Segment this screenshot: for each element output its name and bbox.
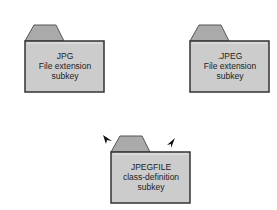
- folder-jpg: JPG File extension subkey: [24, 24, 106, 94]
- folder-kind: subkey: [189, 71, 271, 81]
- arrowhead-right-icon: [165, 137, 177, 149]
- folder-type: File extension: [24, 61, 106, 71]
- diagram-canvas: JPG File extension subkey .JPEG File ext…: [0, 0, 277, 210]
- folder-title: JPEGFILE: [110, 162, 192, 172]
- arrowhead-left-icon: [102, 134, 114, 146]
- folder-label: JPEGFILE class-definition subkey: [110, 162, 192, 192]
- folder-kind: subkey: [110, 182, 192, 192]
- folder-label: JPG File extension subkey: [24, 51, 106, 81]
- folder-title: JPG: [24, 51, 106, 61]
- folder-label: .JPEG File extension subkey: [189, 51, 271, 81]
- folder-type: class-definition: [110, 172, 192, 182]
- folder-kind: subkey: [24, 71, 106, 81]
- folder-jpeg: .JPEG File extension subkey: [189, 24, 271, 94]
- folder-jpegfile: JPEGFILE class-definition subkey: [110, 135, 192, 205]
- folder-type: File extension: [189, 61, 271, 71]
- folder-title: .JPEG: [189, 51, 271, 61]
